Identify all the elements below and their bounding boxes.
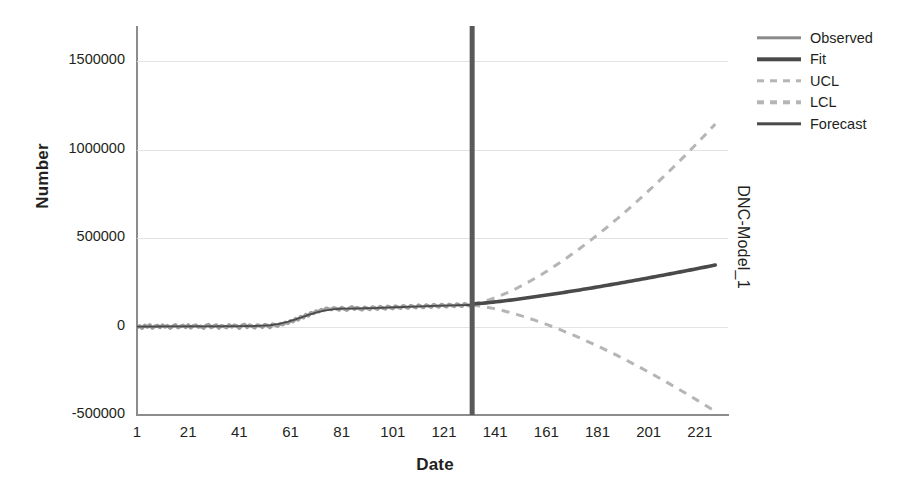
x-tick-label: 201 [627, 423, 671, 440]
y-tick-label: 500000 [39, 228, 125, 244]
legend-swatch-icon [757, 54, 801, 64]
y-tick-label: -500000 [39, 405, 125, 421]
legend-item-fit[interactable]: Fit [757, 49, 897, 71]
y-tick-label: 0 [39, 317, 125, 333]
y-tick-label: 1000000 [39, 140, 125, 156]
x-tick-label: 141 [473, 423, 517, 440]
series-forecast [472, 265, 715, 304]
legend-label: LCL [810, 95, 837, 110]
chart-root: Number 150000010000005000000-500000 1214… [0, 0, 897, 497]
legend-item-lcl[interactable]: LCL [757, 92, 897, 114]
legend-label: UCL [810, 74, 839, 89]
legend-swatch-icon [757, 97, 801, 107]
x-tick-label: 1 [115, 423, 159, 440]
series-lcl [472, 305, 715, 411]
x-tick-label: 101 [371, 423, 415, 440]
legend-label: Forecast [810, 117, 866, 132]
x-tick-label: 161 [524, 423, 568, 440]
legend-swatch-icon [757, 33, 801, 43]
x-tick-label: 41 [217, 423, 261, 440]
legend-item-ucl[interactable]: UCL [757, 70, 897, 92]
legend-item-observed[interactable]: Observed [757, 27, 897, 49]
series-ucl [472, 124, 715, 303]
legend-label: Observed [810, 31, 873, 46]
legend-swatch-icon [757, 76, 801, 86]
x-tick-label: 221 [678, 423, 722, 440]
x-tick-label: 121 [422, 423, 466, 440]
legend: ObservedFitUCLLCLForecast [757, 27, 897, 135]
x-tick-label: 181 [576, 423, 620, 440]
x-tick-label: 21 [166, 423, 210, 440]
legend-item-forecast[interactable]: Forecast [757, 113, 897, 135]
x-axis-title: Date [140, 455, 730, 475]
y-tick-label: 1500000 [39, 51, 125, 67]
y-axis-tick-labels: 150000010000005000000-500000 [20, 0, 125, 497]
legend-swatch-icon [757, 119, 801, 129]
x-tick-label: 81 [320, 423, 364, 440]
plot-area [137, 26, 728, 415]
x-tick-label: 61 [269, 423, 313, 440]
legend-label: Fit [810, 52, 826, 67]
model-name-label: DNC-Model_1 [734, 157, 752, 317]
series-canvas [137, 26, 728, 415]
